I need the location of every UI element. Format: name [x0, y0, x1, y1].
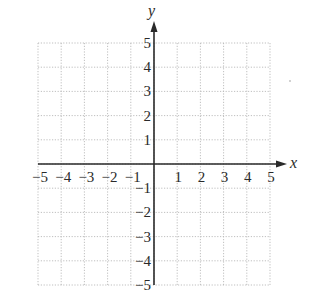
x-tick-label: 4 [244, 169, 252, 185]
y-tick-label: −3 [135, 229, 151, 245]
y-tick-label: −4 [135, 253, 151, 269]
y-tick-label: 5 [144, 35, 152, 51]
x-tick-label: 5 [267, 169, 275, 185]
y-tick-label: −5 [135, 277, 151, 293]
y-tick-label: 4 [144, 59, 152, 75]
coordinate-plane: x y −5−4−3−2−112345 54321−1−2−3−4−5 [0, 0, 312, 299]
y-tick-label: −1 [135, 180, 151, 196]
y-axis-label: y [146, 2, 156, 20]
stray-dot [289, 80, 291, 82]
x-tick-label: 1 [174, 169, 182, 185]
x-axis-label: x [289, 154, 297, 171]
x-tick-label: 2 [198, 169, 206, 185]
x-tick-label: −5 [32, 169, 48, 185]
y-tick-label: 2 [144, 108, 152, 124]
y-tick-label: −2 [135, 204, 151, 220]
x-tick-label: 3 [221, 169, 229, 185]
x-axis-arrow-icon [276, 161, 287, 168]
x-tick-label: −4 [55, 169, 71, 185]
x-tick-label: −3 [78, 169, 94, 185]
axes [38, 21, 287, 285]
x-tick-label: −2 [102, 169, 118, 185]
y-tick-label: 1 [144, 132, 152, 148]
y-tick-label: 3 [144, 83, 152, 99]
y-axis-arrow-icon [151, 21, 158, 32]
